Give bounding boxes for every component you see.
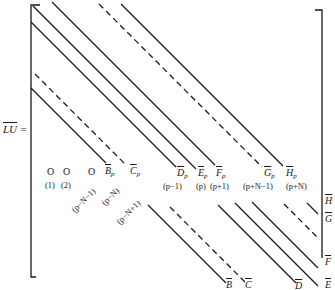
- zero-2-index: (2): [61, 181, 71, 190]
- matrix-structure-svg: [0, 0, 335, 290]
- label-Gp-index: (p+N−1): [243, 182, 273, 191]
- label-Cp: Cp: [130, 166, 140, 178]
- diagonal-Cp-upper: [35, 74, 125, 164]
- label-B-lower: B: [226, 280, 232, 290]
- diagonal-E-lower: [235, 203, 318, 286]
- label-C-lower: C: [245, 280, 252, 290]
- right-bracket: [315, 10, 322, 258]
- label-G-right: G: [325, 214, 332, 224]
- label-Dp: Dp: [177, 168, 188, 180]
- zero-1-index: (1): [45, 181, 55, 190]
- diagonal-Gp-upper: [99, 4, 262, 167]
- diagonal-B-lower: [148, 205, 226, 283]
- label-Hp: Hp: [286, 168, 297, 180]
- label-E-right: E: [325, 280, 331, 290]
- zero-3: O: [88, 167, 95, 177]
- diagonal-Dp-upper: [31, 22, 176, 167]
- label-Fp-index: (p+1): [210, 182, 229, 191]
- label-Gp: Gp: [264, 168, 275, 180]
- diagonal-Fp-upper: [52, 2, 215, 165]
- diagonal-D-lower: [218, 205, 296, 283]
- label-Fp: Fp: [216, 168, 226, 180]
- diagonal-F-lower: [252, 202, 318, 268]
- diagonal-Ep-upper: [33, 6, 196, 169]
- label-Ep: Ep: [198, 168, 208, 180]
- equation-lhs: LU =: [3, 124, 27, 135]
- lu-matrix-diagram: LU = O (1) O (2) O (p−N−1) Bp (p−N) Cp (…: [0, 0, 335, 290]
- diagonal-Bp-upper: [31, 88, 106, 163]
- label-Dp-index: (p−1): [163, 182, 182, 191]
- left-bracket: [31, 5, 40, 277]
- label-D-lower: D: [295, 281, 302, 290]
- diagonal-Hp-upper: [121, 4, 283, 166]
- zero-1: O: [47, 167, 54, 177]
- label-H-right: H: [325, 196, 332, 206]
- diagonal-C-lower: [170, 207, 247, 284]
- label-Ep-index: (p): [196, 182, 206, 191]
- label-Hp-index: (p+N): [286, 182, 307, 191]
- diagonal-H-lower: [307, 203, 318, 214]
- label-Bp: Bp: [105, 166, 115, 178]
- zero-2: O: [63, 167, 70, 177]
- label-F-right: F: [325, 257, 331, 267]
